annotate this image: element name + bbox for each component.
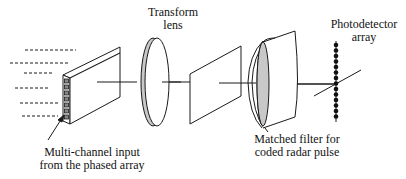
input-channels (65, 79, 69, 119)
label-input: Multi-channel input from the phased arra… (22, 146, 162, 172)
label-detector-line2: array (322, 31, 406, 44)
optical-processor-diagram: Multi-channel input from the phased arra… (0, 0, 406, 179)
transform-lens (141, 38, 181, 126)
channel-cell (65, 109, 69, 113)
channel-cell (65, 79, 69, 83)
input-block (63, 47, 120, 124)
input-pointer-arrow (48, 115, 64, 140)
channel-cell (65, 91, 69, 95)
label-filter: Matched filter for coded radar pulse (238, 133, 356, 159)
label-lens: Transform lens (138, 6, 208, 32)
fourier-plane (190, 46, 241, 124)
channel-cell (65, 115, 69, 119)
channel-cell (65, 85, 69, 89)
label-input-line2: from the phased array (22, 159, 162, 172)
label-detector: Photodetector array (322, 18, 406, 44)
label-lens-line2: lens (138, 19, 208, 32)
matched-filter (248, 31, 337, 128)
channel-cell (65, 103, 69, 107)
channel-cell (65, 97, 69, 101)
photodetector-array (314, 41, 361, 122)
label-filter-line2: coded radar pulse (238, 146, 356, 159)
